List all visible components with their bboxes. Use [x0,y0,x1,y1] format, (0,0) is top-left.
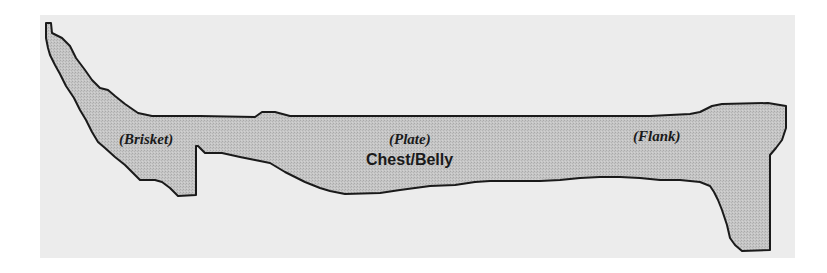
diagram-figure: (Brisket) (Plate) Chest/Belly (Flank) [0,0,827,273]
label-brisket: (Brisket) [119,131,173,148]
label-plate: (Plate) [389,131,431,148]
label-chest-belly: Chest/Belly [366,151,453,169]
label-flank: (Flank) [633,128,681,145]
